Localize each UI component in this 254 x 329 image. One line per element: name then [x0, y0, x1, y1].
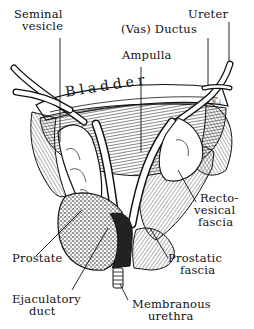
- label-seminal-line2: vesicle: [14, 20, 63, 32]
- prostate: [58, 193, 132, 270]
- label-prostate: Prostate: [12, 252, 63, 264]
- label-membranous-line2: urethra: [132, 310, 211, 322]
- label-seminal-vesicle: Seminal vesicle: [14, 8, 63, 32]
- label-ureter: Ureter: [188, 8, 228, 20]
- label-recto-line3: fascia: [198, 216, 239, 228]
- label-prostatic-fascia: Prostatic fascia: [168, 252, 222, 276]
- artist-signature: N.J.: [212, 98, 224, 104]
- label-membranous-urethra: Membranous urethra: [132, 298, 211, 322]
- label-ejaculatory-duct: Ejaculatory duct: [12, 293, 81, 317]
- label-recto-vesical-fascia: Recto- vesical fascia: [200, 192, 239, 228]
- label-ejaculatory-line2: duct: [12, 305, 81, 317]
- label-ampulla: Ampulla: [122, 49, 172, 61]
- membranous-urethra: [113, 268, 123, 288]
- anatomy-figure: Seminal vesicle (Vas) Ductus Ampulla Ure…: [0, 0, 254, 329]
- leader-membranous-urethra: [120, 284, 128, 300]
- label-vas-ductus: (Vas) Ductus: [121, 23, 197, 35]
- label-prostatic-line2: fascia: [168, 264, 222, 276]
